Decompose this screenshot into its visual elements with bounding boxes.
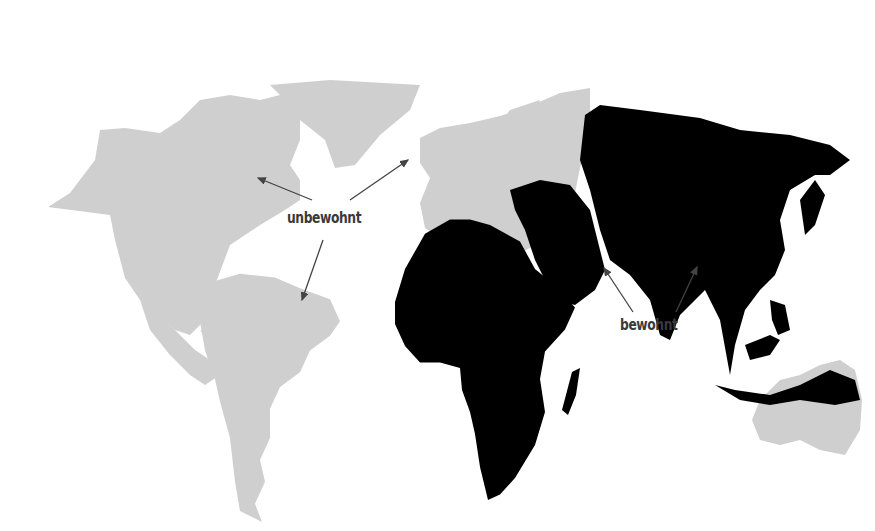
arrow-to-south-america: [302, 240, 323, 300]
arrow-to-europe: [350, 160, 408, 200]
region-southeast-asia: [745, 335, 780, 360]
region-south-america: [200, 274, 340, 522]
world-map: [0, 0, 875, 531]
region-asia: [580, 105, 850, 375]
arrow-to-arabian-sea: [604, 268, 633, 312]
region-philippines: [770, 300, 790, 335]
region-madagascar: [562, 368, 580, 415]
label-bewohnt: bewohnt: [620, 316, 677, 334]
region-japan: [800, 180, 825, 235]
label-unbewohnt: unbewohnt: [287, 209, 361, 227]
region-australia: [752, 360, 862, 455]
